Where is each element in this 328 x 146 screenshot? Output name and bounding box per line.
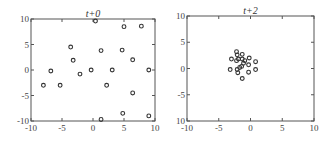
- data-point: [139, 24, 143, 28]
- y-tick-label: 0: [181, 64, 186, 74]
- x-tick-label: 5: [280, 123, 285, 133]
- data-point: [120, 48, 124, 52]
- data-point: [131, 58, 135, 62]
- x-tick-label: 10: [151, 123, 161, 133]
- data-point: [89, 68, 93, 72]
- data-point: [131, 91, 135, 95]
- data-point: [49, 69, 53, 73]
- axes-frame: [187, 16, 314, 121]
- data-point: [105, 83, 109, 87]
- data-point: [240, 52, 244, 56]
- data-point: [94, 19, 98, 23]
- panel-title: t+2: [243, 5, 258, 16]
- data-point: [147, 68, 151, 72]
- y-tick-label: -10: [17, 116, 29, 126]
- data-point: [254, 60, 258, 64]
- scatter-chart-figure: t+0-10-505101050-5-10 t+2-10-505101050-5…: [0, 0, 328, 146]
- y-tick-label: 0: [25, 65, 30, 75]
- data-point: [121, 111, 125, 115]
- panel-title: t+0: [86, 8, 101, 19]
- x-tick-label: -5: [58, 123, 66, 133]
- data-point: [147, 114, 151, 118]
- y-tick-label: 10: [176, 11, 186, 21]
- y-tick-label: 5: [181, 37, 186, 47]
- x-tick-label: 10: [310, 123, 320, 133]
- data-point: [122, 25, 126, 29]
- data-point: [99, 49, 103, 53]
- data-point: [58, 83, 62, 87]
- y-tick-label: 10: [176, 116, 186, 126]
- data-point: [69, 45, 73, 49]
- scatter-panel-t0: t+0-10-505101050-5-10: [17, 8, 160, 133]
- data-point: [78, 72, 82, 76]
- data-point: [228, 68, 232, 72]
- x-tick-label: 0: [248, 123, 253, 133]
- data-point: [254, 68, 258, 72]
- data-point: [110, 68, 114, 72]
- y-tick-label: 5: [25, 40, 30, 50]
- y-tick-label: 10: [20, 14, 30, 24]
- data-point: [230, 57, 234, 61]
- y-tick-label: -5: [178, 90, 186, 100]
- data-point: [247, 63, 251, 67]
- x-tick-label: 0: [91, 123, 96, 133]
- data-point: [71, 58, 75, 62]
- y-tick-label: -5: [22, 91, 30, 101]
- data-point: [42, 83, 46, 87]
- x-tick-label: 5: [122, 123, 127, 133]
- scatter-panel-t2: t+2-10-505101050-510: [176, 5, 319, 133]
- data-point: [247, 56, 251, 60]
- x-tick-label: -5: [215, 123, 223, 133]
- data-point: [240, 77, 244, 81]
- data-point: [247, 70, 251, 74]
